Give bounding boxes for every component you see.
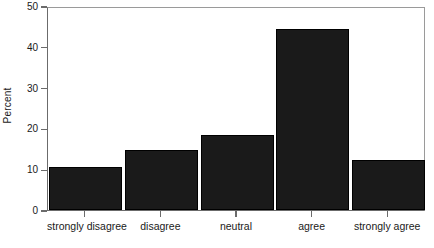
x-axis-category-label: agree [274,220,350,232]
y-axis-title: Percent [0,0,16,211]
y-axis-tick-label: 30 [20,84,38,94]
x-axis-tick [387,211,388,217]
y-axis-tick [41,129,47,130]
x-axis-category-label: strongly disagree [47,220,123,232]
x-axis-tick [160,211,161,217]
y-axis-tick-label: 50 [20,2,38,12]
bar-series [48,8,424,210]
y-axis-tick [41,88,47,89]
y-axis-tick [41,170,47,171]
bar [201,135,274,210]
x-axis-category-label: neutral [198,220,274,232]
x-axis-category-label: strongly agree [349,220,425,232]
x-axis-tick [235,211,236,217]
y-axis-title-text: Percent [3,88,14,124]
y-axis-tick-label: 10 [20,165,38,175]
y-axis-tick-label: 20 [20,124,38,134]
plot-area [47,7,425,211]
y-axis-tick [41,47,47,48]
y-axis-tick [41,6,47,7]
bar [276,29,349,210]
y-axis-tick-label: 0 [20,206,38,216]
x-axis-tick [84,211,85,217]
x-axis-tick [311,211,312,217]
x-axis-category-label: disagree [123,220,199,232]
y-axis-tick [41,210,47,211]
y-axis-tick-label: 40 [20,43,38,53]
bar-chart-figure: Percent 01020304050strongly disagreedisa… [0,0,434,248]
bar [49,167,122,210]
bar [352,160,425,210]
bar [125,150,198,210]
